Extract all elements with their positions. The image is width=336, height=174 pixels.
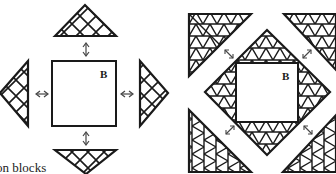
- center-square-b: B: [52, 61, 116, 126]
- diagram-canvas: B: [0, 0, 336, 174]
- right-panel: B: [189, 14, 336, 172]
- diagonal-arrow-icon: [304, 126, 312, 134]
- left-right-arrow-icon: [121, 91, 133, 97]
- caption-text: on blocks: [0, 160, 46, 174]
- bottom-triangle: [55, 150, 116, 174]
- up-down-arrow-icon: [83, 132, 89, 145]
- left-right-arrow-icon: [36, 91, 48, 97]
- left-triangle: [0, 61, 28, 126]
- diagonal-arrow-icon: [226, 126, 234, 134]
- left-panel: B: [0, 5, 168, 174]
- up-down-arrow-icon: [83, 43, 89, 56]
- square-label: B: [282, 70, 290, 82]
- center-diamond: B: [205, 30, 330, 155]
- diagonal-arrow-icon: [303, 50, 311, 58]
- top-triangle: [55, 5, 116, 36]
- diagonal-arrow-icon: [225, 50, 233, 58]
- right-triangle: [140, 61, 168, 126]
- square-label: B: [100, 68, 108, 80]
